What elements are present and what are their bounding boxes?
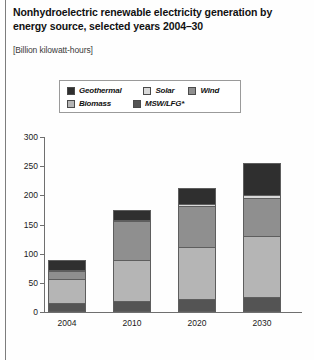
- bar-2030: [243, 163, 281, 312]
- chart-plot-area: 050100150200250300 2004201020202030: [0, 0, 314, 360]
- bar-segment-geothermal: [113, 210, 151, 220]
- y-tick-250: [40, 166, 45, 167]
- y-tick-50: [40, 283, 45, 284]
- bar-segment-wind: [48, 271, 86, 280]
- y-tick-label-150: 150: [8, 220, 38, 230]
- y-tick-label-200: 200: [8, 190, 38, 200]
- x-axis-label-2020: 2020: [167, 318, 227, 328]
- bar-segment-biomass: [113, 260, 151, 301]
- y-tick-0: [40, 312, 45, 313]
- bar-segment-msw-lfg: [178, 299, 216, 312]
- bar-segment-wind: [243, 198, 281, 236]
- bar-segment-wind: [113, 221, 151, 260]
- bar-segment-biomass: [178, 247, 216, 300]
- y-tick-label-100: 100: [8, 249, 38, 259]
- y-tick-100: [40, 254, 45, 255]
- bar-2010: [113, 210, 151, 312]
- x-axis-label-2030: 2030: [232, 318, 292, 328]
- y-tick-150: [40, 225, 45, 226]
- x-axis-line: [44, 312, 302, 313]
- y-tick-300: [40, 137, 45, 138]
- bar-segment-msw-lfg: [243, 297, 281, 312]
- bar-segment-wind: [178, 206, 216, 247]
- bar-segment-geothermal: [243, 163, 281, 195]
- y-tick-label-50: 50: [8, 278, 38, 288]
- y-tick-label-250: 250: [8, 161, 38, 171]
- figure-page: Nonhydroelectric renewable electricity g…: [0, 0, 314, 360]
- bar-segment-geothermal: [178, 188, 216, 204]
- bar-2004: [48, 260, 86, 312]
- y-tick-label-300: 300: [8, 132, 38, 142]
- bar-segment-biomass: [48, 279, 86, 302]
- x-axis-label-2010: 2010: [102, 318, 162, 328]
- bar-segment-msw-lfg: [48, 303, 86, 312]
- y-tick-label-0: 0: [8, 307, 38, 317]
- y-tick-200: [40, 195, 45, 196]
- x-axis-label-2004: 2004: [37, 318, 97, 328]
- bar-2020: [178, 188, 216, 312]
- bar-segment-biomass: [243, 236, 281, 297]
- bar-segment-msw-lfg: [113, 301, 151, 312]
- bar-segment-geothermal: [48, 260, 86, 269]
